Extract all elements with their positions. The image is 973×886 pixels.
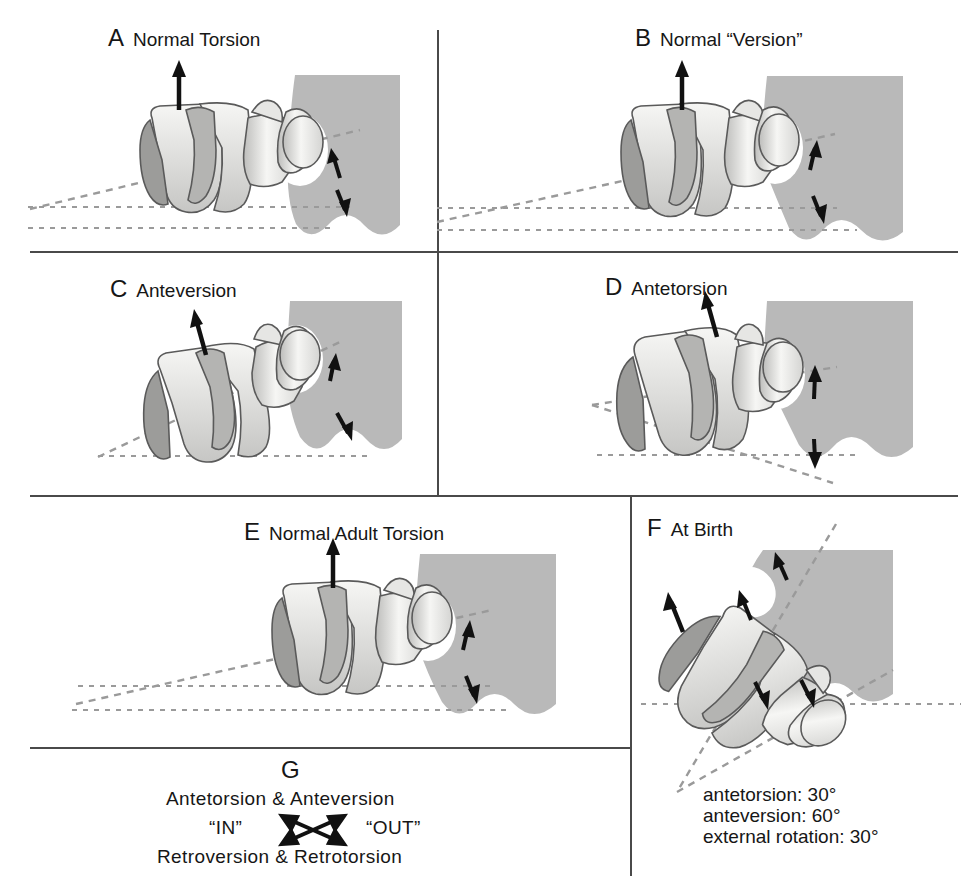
femur-bone-e xyxy=(272,578,452,694)
panel-f: FAt Birth 30° 60° antetorsion: 30° antev… xyxy=(631,496,973,886)
panel-c: CAnteversion 25° xyxy=(0,251,437,496)
panel-b: BNormal “Version” 12° xyxy=(437,0,973,251)
femur-bone-b xyxy=(621,100,799,216)
figure-canvas: ANormal Torsion 12° xyxy=(0,0,973,886)
femur-bone-c xyxy=(144,324,320,462)
femur-bone-d xyxy=(617,324,803,455)
panel-d: DAntetorsion 30° xyxy=(437,251,973,496)
panel-e: ENormal Adult Torsion 12° xyxy=(0,496,631,747)
panel-a: ANormal Torsion 12° xyxy=(0,0,437,251)
direction-arrow-f xyxy=(663,592,683,632)
direction-arrow-a xyxy=(172,60,186,110)
cross-arrows-icon xyxy=(282,816,344,844)
panel-g: G Antetorsion & Anteversion “IN” “OUT” R… xyxy=(0,748,631,886)
